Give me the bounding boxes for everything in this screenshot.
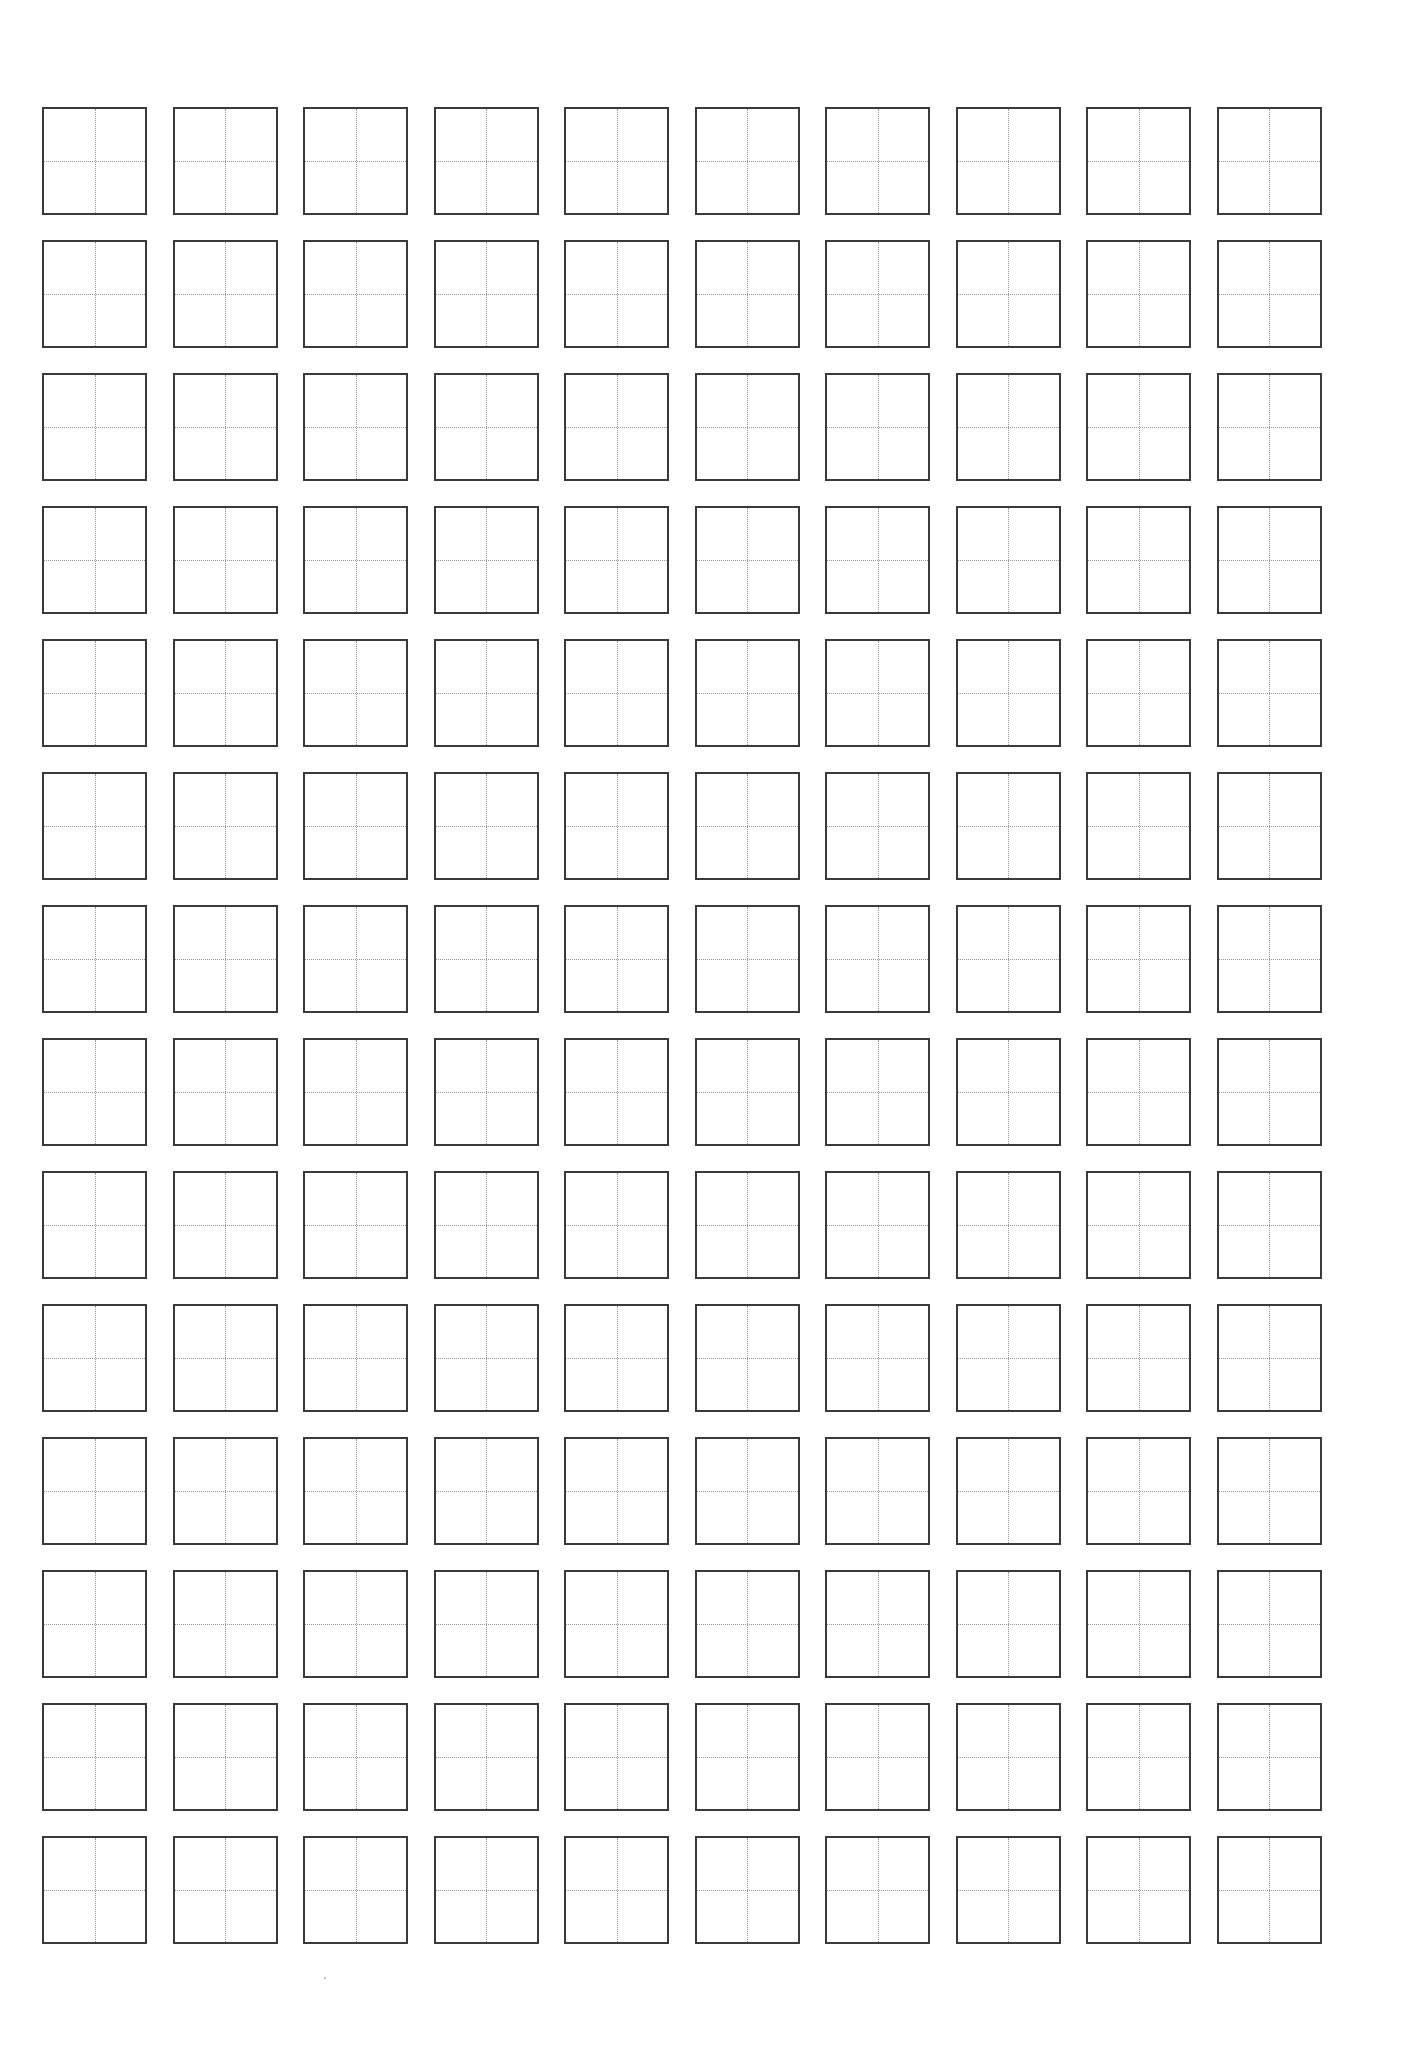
writing-cell xyxy=(173,107,278,215)
writing-cell xyxy=(1217,1038,1322,1146)
writing-cell xyxy=(825,1304,930,1412)
horizontal-guide-line xyxy=(697,1092,798,1093)
horizontal-guide-line xyxy=(566,1491,667,1492)
horizontal-guide-line xyxy=(697,1890,798,1891)
writing-cell xyxy=(434,240,539,348)
horizontal-guide-line xyxy=(44,560,145,561)
horizontal-guide-line xyxy=(958,560,1059,561)
writing-cell xyxy=(1086,506,1191,614)
writing-cell xyxy=(695,1304,800,1412)
writing-cell xyxy=(303,1570,408,1678)
writing-cell xyxy=(564,639,669,747)
writing-cell xyxy=(173,1171,278,1279)
writing-cell xyxy=(42,1038,147,1146)
writing-cell xyxy=(303,1836,408,1944)
horizontal-guide-line xyxy=(305,1358,406,1359)
writing-cell xyxy=(956,506,1061,614)
writing-cell xyxy=(1217,639,1322,747)
horizontal-guide-line xyxy=(305,826,406,827)
writing-cell xyxy=(695,1570,800,1678)
writing-cell xyxy=(42,107,147,215)
horizontal-guide-line xyxy=(1219,693,1320,694)
horizontal-guide-line xyxy=(175,959,276,960)
writing-cell xyxy=(825,373,930,481)
horizontal-guide-line xyxy=(827,959,928,960)
horizontal-guide-line xyxy=(1088,560,1189,561)
horizontal-guide-line xyxy=(1088,294,1189,295)
writing-cell xyxy=(1217,240,1322,348)
writing-cell xyxy=(173,1836,278,1944)
horizontal-guide-line xyxy=(1088,1890,1189,1891)
horizontal-guide-line xyxy=(958,1757,1059,1758)
writing-cell xyxy=(173,1570,278,1678)
horizontal-guide-line xyxy=(697,1491,798,1492)
horizontal-guide-line xyxy=(566,161,667,162)
writing-cell xyxy=(695,1836,800,1944)
writing-cell xyxy=(42,1171,147,1279)
horizontal-guide-line xyxy=(1088,959,1189,960)
horizontal-guide-line xyxy=(1088,427,1189,428)
writing-cell xyxy=(173,1703,278,1811)
horizontal-guide-line xyxy=(1088,161,1189,162)
horizontal-guide-line xyxy=(958,693,1059,694)
writing-cell xyxy=(695,1437,800,1545)
writing-cell xyxy=(695,373,800,481)
writing-cell xyxy=(42,772,147,880)
writing-cell xyxy=(564,905,669,1013)
writing-cell xyxy=(1086,639,1191,747)
horizontal-guide-line xyxy=(697,1358,798,1359)
writing-cell xyxy=(42,506,147,614)
writing-cell xyxy=(825,1836,930,1944)
writing-cell xyxy=(695,1171,800,1279)
writing-cell xyxy=(1217,905,1322,1013)
horizontal-guide-line xyxy=(697,959,798,960)
horizontal-guide-line xyxy=(827,1358,928,1359)
horizontal-guide-line xyxy=(1088,1092,1189,1093)
horizontal-guide-line xyxy=(1088,1757,1189,1758)
horizontal-guide-line xyxy=(697,294,798,295)
horizontal-guide-line xyxy=(566,1757,667,1758)
horizontal-guide-line xyxy=(827,427,928,428)
horizontal-guide-line xyxy=(566,427,667,428)
writing-cell xyxy=(303,107,408,215)
horizontal-guide-line xyxy=(566,1358,667,1359)
writing-cell xyxy=(956,772,1061,880)
horizontal-guide-line xyxy=(958,1491,1059,1492)
horizontal-guide-line xyxy=(697,427,798,428)
writing-cell xyxy=(825,1038,930,1146)
horizontal-guide-line xyxy=(44,1225,145,1226)
horizontal-guide-line xyxy=(436,1757,537,1758)
writing-cell xyxy=(1217,373,1322,481)
horizontal-guide-line xyxy=(1088,826,1189,827)
horizontal-guide-line xyxy=(175,1890,276,1891)
horizontal-guide-line xyxy=(827,1624,928,1625)
horizontal-guide-line xyxy=(566,560,667,561)
writing-cell xyxy=(1086,1171,1191,1279)
writing-cell xyxy=(825,772,930,880)
writing-cell xyxy=(434,506,539,614)
horizontal-guide-line xyxy=(175,1358,276,1359)
writing-cell xyxy=(1217,1570,1322,1678)
horizontal-guide-line xyxy=(958,1358,1059,1359)
horizontal-guide-line xyxy=(44,1491,145,1492)
writing-cell xyxy=(303,1171,408,1279)
writing-cell xyxy=(956,1038,1061,1146)
horizontal-guide-line xyxy=(305,959,406,960)
horizontal-guide-line xyxy=(305,560,406,561)
writing-cell xyxy=(956,1836,1061,1944)
horizontal-guide-line xyxy=(1219,959,1320,960)
horizontal-guide-line xyxy=(697,826,798,827)
horizontal-guide-line xyxy=(44,294,145,295)
writing-cell xyxy=(956,905,1061,1013)
writing-cell xyxy=(42,1304,147,1412)
writing-cell xyxy=(564,1437,669,1545)
writing-cell xyxy=(1086,1437,1191,1545)
horizontal-guide-line xyxy=(827,294,928,295)
horizontal-guide-line xyxy=(44,161,145,162)
writing-cell xyxy=(564,240,669,348)
writing-cell xyxy=(956,1304,1061,1412)
horizontal-guide-line xyxy=(305,161,406,162)
writing-cell xyxy=(434,107,539,215)
writing-cell xyxy=(695,506,800,614)
horizontal-guide-line xyxy=(44,959,145,960)
